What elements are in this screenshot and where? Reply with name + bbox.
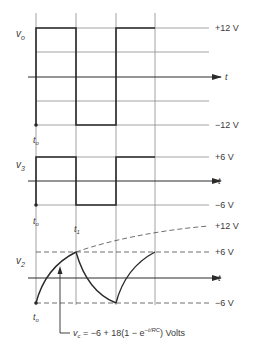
leader-line: [60, 269, 70, 333]
v3-level-bottom: −6 V: [215, 200, 234, 210]
v2-time-origin-label: to: [33, 312, 40, 323]
v3-signal-label: v3: [16, 159, 25, 172]
v3-level-top: +6 V: [215, 152, 234, 162]
equation-text: vc = −6 + 18(1 − e−t/RC) Volts: [73, 327, 186, 339]
v2-level-bottom: −6 V: [215, 298, 234, 308]
vo-origin-dot: [34, 123, 38, 127]
panel-v3: v3 +6 V −6 V t to: [16, 152, 234, 227]
v2-level-mid: +6 V: [215, 247, 234, 257]
v2-level-top: +12 V: [215, 221, 239, 231]
panel-v2: v2 +12 V +6 V −6 V t t1 to: [16, 221, 239, 323]
vo-signal-label: vo: [16, 28, 25, 41]
v2-origin-dot: [34, 301, 38, 305]
v3-origin-dot: [34, 203, 38, 207]
waveform-diagram: vo +12 V −12 V t to v3 +6 V −6 V t to v2: [0, 0, 261, 363]
leader-arrowhead-icon: [58, 266, 63, 274]
v2-dashed-levels: [36, 226, 209, 303]
v2-marker-t1-label: t1: [74, 224, 80, 235]
vo-axis-label: t: [225, 72, 228, 82]
vertical-grid-lines: [36, 13, 155, 305]
vo-level-bottom: −12 V: [215, 120, 239, 130]
vo-level-top: +12 V: [215, 23, 239, 33]
equation-annotation: vc = −6 + 18(1 − e−t/RC) Volts: [58, 266, 186, 339]
panel-vo: vo +12 V −12 V t to: [16, 23, 239, 146]
v2-signal-label: v2: [16, 255, 25, 268]
